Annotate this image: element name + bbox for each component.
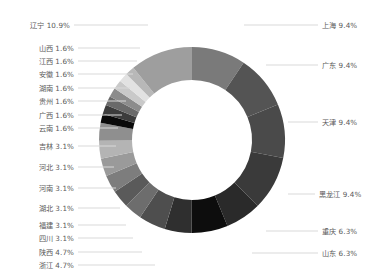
slice-label-left: 河南 3.1%: [0, 184, 74, 193]
slice-label-left: 吉林 3.1%: [0, 142, 74, 151]
slice-label-left: 湖北 3.1%: [0, 204, 74, 213]
slice-label-right: 广东 9.4%: [322, 61, 357, 70]
slice-label-left: 河北 3.1%: [0, 163, 74, 172]
slice-label-left: 安徽 1.6%: [0, 70, 74, 79]
slice-label-left: 山西 1.6%: [0, 44, 74, 53]
slice-label-left: 辽宁 10.9%: [0, 21, 70, 30]
slice-label-left: 福建 3.1%: [0, 221, 74, 230]
slice-label-left: 贵州 1.6%: [0, 97, 74, 106]
slice-label-left: 浙江 4.7%: [0, 261, 74, 270]
slice-label-left: 江西 1.6%: [0, 57, 74, 66]
slice-label-right: 重庆 6.3%: [322, 227, 357, 236]
slice-label-right: 山东 6.3%: [322, 249, 357, 258]
slice-label-left: 广西 1.6%: [0, 111, 74, 120]
slice-label-right: 黑龙江 9.4%: [319, 190, 361, 199]
slice-label-left: 湖南 1.6%: [0, 84, 74, 93]
slice-label-right: 上海 9.4%: [322, 21, 357, 30]
slice-label-left: 四川 3.1%: [0, 234, 74, 243]
slice-label-left: 云南 1.6%: [0, 124, 74, 133]
slice-label-right: 天津 9.4%: [322, 118, 357, 127]
slice-label-left: 陕西 4.7%: [0, 248, 74, 257]
donut-chart: 辽宁 10.9%山西 1.6%江西 1.6%安徽 1.6%湖南 1.6%贵州 1…: [0, 0, 383, 275]
